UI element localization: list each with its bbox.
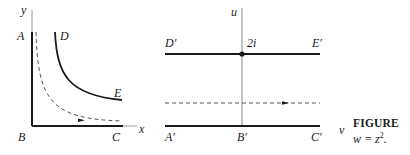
point-D-prime-label: D′ (164, 36, 177, 50)
v-axis-label: u (231, 5, 237, 19)
x-axis-label: x (138, 122, 145, 136)
mapping-diagram: y A D E B C x u 2i D′ E′ A′ B′ C′ v (0, 0, 410, 155)
dashed-streamline (36, 32, 122, 121)
point-D-label: D (59, 29, 69, 43)
z-plane-panel: y A D E B C x (16, 3, 145, 144)
point-A-prime-label: A′ (164, 130, 175, 144)
equation-tail: . (384, 132, 387, 146)
point-C-label: C (112, 130, 121, 144)
value-2i-label: 2i (247, 36, 256, 50)
y-axis-label: y (20, 3, 27, 17)
w-plane-panel: u 2i D′ E′ A′ B′ C′ v (164, 5, 345, 144)
point-2i-marker (239, 51, 244, 56)
direction-arrow-icon (78, 119, 85, 122)
point-A-label: A (16, 29, 25, 43)
point-B-prime-label: B′ (237, 130, 247, 144)
point-C-prime-label: C′ (311, 130, 322, 144)
point-B-label: B (18, 130, 26, 144)
u-axis-label: v (339, 123, 345, 137)
direction-arrow-icon (282, 101, 289, 104)
figure-caption-title: FIGURE (353, 117, 399, 129)
equation-lhs: w = z (353, 132, 380, 146)
figure-caption-equation: w = z2. (353, 131, 387, 147)
point-E-label: E (113, 86, 122, 100)
point-E-prime-label: E′ (311, 36, 322, 50)
